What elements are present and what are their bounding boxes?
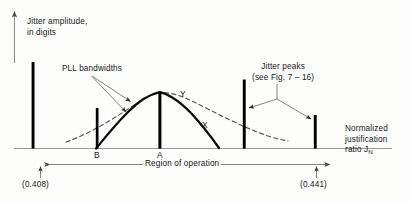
y-axis-title-line2: in digits: [27, 28, 56, 37]
bar-left-spur: [32, 62, 35, 149]
y-axis-title: Jitter amplitude,in digits: [27, 17, 87, 38]
point-a-label: A: [157, 150, 163, 161]
jitter-peaks-label: Jitter peaks(see Fig. 7 – 16): [252, 62, 314, 83]
jitter-peaks-line1: Jitter peaks: [261, 62, 305, 71]
right-bound-value-label: (0.441): [300, 180, 327, 191]
point-b-label: B: [94, 150, 100, 161]
x-axis-title-subscript: N: [368, 148, 373, 155]
pll-bandwidth-leader-lines: [92, 76, 131, 112]
jitter-peaks-leader-lines: [249, 84, 311, 119]
x-axis-title-line2: justification: [345, 135, 387, 144]
region-of-operation-label: Region of operation: [143, 159, 221, 170]
figure-container: Jitter amplitude,in digits PLL bandwidth…: [0, 0, 410, 203]
bar-jitter-peak-1: [243, 80, 246, 149]
curve-x-label: X: [202, 120, 208, 131]
curve-x-narrow-bandwidth: [96, 92, 219, 148]
x-axis-title-line1: Normalized: [345, 124, 388, 133]
x-axis-title: Normalizedjustificationratio JN: [345, 124, 388, 157]
bar-point-b: [96, 108, 99, 149]
left-bound-value-label: (0.408): [22, 180, 49, 191]
jitter-peaks-line2: (see Fig. 7 – 16): [252, 73, 314, 82]
curve-y-label: Y: [180, 89, 186, 100]
bar-jitter-peak-2: [314, 115, 317, 149]
x-axis-title-line3: ratio J: [345, 145, 368, 154]
bar-point-a: [158, 92, 161, 149]
y-axis-title-line1: Jitter amplitude,: [27, 17, 87, 26]
pll-bandwidths-label: PLL bandwidths: [62, 64, 122, 75]
